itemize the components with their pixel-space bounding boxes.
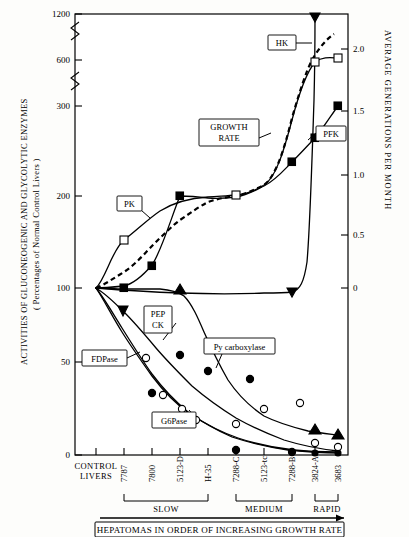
callout-pfk-label: PFK xyxy=(323,129,339,139)
y-ticklabel-600: 600 xyxy=(57,55,71,65)
callout-fdpase-label: FDPase xyxy=(91,354,118,364)
x-label-5123-d: 5123-D xyxy=(175,456,185,482)
arrow-head-icon xyxy=(336,515,344,522)
marker-g6p-7288b xyxy=(296,399,303,406)
marker-pyc-5123d xyxy=(176,351,183,358)
callout-pk-label: PK xyxy=(124,199,136,209)
growth-group-brackets: SLOW MEDIUM RAPID xyxy=(124,494,341,514)
marker-g6p-3824a xyxy=(311,439,318,446)
group-label-rapid: RAPID xyxy=(313,504,341,514)
callout-g6pase-label: G6Pase xyxy=(161,416,187,426)
callout-pepck-line1: PEP xyxy=(151,309,166,319)
x-label-control-line2: LIVERS xyxy=(80,471,112,481)
marker-g6p-h35 xyxy=(178,405,185,412)
y-axis-subtitle: ( Percentages of Normal Control Livers ) xyxy=(31,158,41,310)
x-label-3824-a: 3824-A xyxy=(310,455,320,482)
y2-ticklabel-2: 2.0 xyxy=(353,44,365,54)
y2-ticklabel-05: 0.5 xyxy=(353,230,365,240)
marker-pyc-7288b xyxy=(288,448,295,455)
x-label-control-line1: CONTROL xyxy=(75,461,118,471)
y-axis-right: 2.0 1.5 1.0 0.5 0 AVERAGE GENERATIONS PE… xyxy=(341,30,393,293)
marker-pk-7288c xyxy=(232,191,240,199)
chart-svg: 1200 600 300 200 100 50 0 ACTIVITIES OF … xyxy=(0,0,409,537)
marker-g6p-3683 xyxy=(334,443,341,450)
y-ticklabel-50: 50 xyxy=(61,357,71,367)
marker-pyc-5123tc xyxy=(246,375,253,382)
y-ticklabel-300: 300 xyxy=(57,101,71,111)
y-ticklabel-0: 0 xyxy=(66,450,71,460)
x-label-7787: 7787 xyxy=(119,465,129,482)
marker-pfk-5123d xyxy=(176,192,184,200)
group-label-slow: SLOW xyxy=(153,504,179,514)
bracket-rapid xyxy=(315,494,338,501)
increasing-growth-arrow xyxy=(100,515,344,522)
marker-pk-7800 xyxy=(120,236,128,244)
marker-pyc-7800 xyxy=(148,389,155,396)
marker-pfk-7800 xyxy=(148,262,156,270)
group-label-medium: MEDIUM xyxy=(245,504,283,514)
y-axis-left: 1200 600 300 200 100 50 0 ACTIVITIES OF … xyxy=(19,9,82,460)
callout-growth-rate-line2: RATE xyxy=(218,133,239,143)
callout-hk-label: HK xyxy=(276,38,289,48)
bracket-slow xyxy=(124,494,208,501)
y2-axis-title: AVERAGE GENERATIONS PER MONTH xyxy=(383,30,393,210)
marker-pfk-7288b xyxy=(288,158,296,166)
marker-g6p-5123d xyxy=(159,391,166,398)
bracket-medium xyxy=(236,494,292,501)
plot-frame xyxy=(75,14,348,455)
y-ticklabel-1200: 1200 xyxy=(52,9,71,19)
marker-g6p-7288c xyxy=(232,420,239,427)
marker-pk-3824a xyxy=(311,58,319,66)
marker-g6p-5123tc xyxy=(260,405,267,412)
chart-figure: 1200 600 300 200 100 50 0 ACTIVITIES OF … xyxy=(0,0,409,537)
y2-ticklabel-1: 1.0 xyxy=(353,170,365,180)
x-label-7800: 7800 xyxy=(147,465,157,482)
callout-g6pase: G6Pase xyxy=(152,410,196,428)
marker-pfk-7787 xyxy=(120,284,128,292)
y-ticklabel-200: 200 xyxy=(57,191,71,201)
x-label-7288-c: 7288-C xyxy=(231,456,241,482)
plot-area-border xyxy=(75,14,348,455)
callout-py-carboxylase-label: Py carboxylase xyxy=(214,342,266,352)
marker-pfk-3683 xyxy=(334,102,342,110)
y-ticklabel-100: 100 xyxy=(57,283,71,293)
callout-growth-rate-line1: GROWTH xyxy=(210,122,247,132)
marker-pk-3683 xyxy=(334,54,342,62)
callout-pepck-line2: CK xyxy=(152,320,165,330)
x-label-h-35: H-35 xyxy=(203,465,213,482)
y-axis-title: ACTIVITIES OF GLUCONEOGENIC AND GLYCOLYT… xyxy=(19,98,29,365)
x-label-7288-b: 7288-B xyxy=(287,456,297,482)
y2-ticklabel-15: 1.5 xyxy=(353,106,365,116)
x-label-5123-tc: 5123-tc xyxy=(259,456,269,482)
marker-pyc-7288c xyxy=(232,446,239,453)
x-label-3683: 3683 xyxy=(333,465,343,482)
footer-caption: HEPATOMAS IN ORDER OF INCREASING GROWTH … xyxy=(95,522,344,537)
y2-axis-title-text: AVERAGE GENERATIONS PER MONTH xyxy=(383,30,393,210)
footer-caption-text: HEPATOMAS IN ORDER OF INCREASING GROWTH … xyxy=(97,525,343,535)
marker-pyc-3824a xyxy=(312,450,318,456)
y2-ticklabel-0: 0 xyxy=(353,283,358,293)
marker-g6p-7800 xyxy=(142,354,149,361)
marker-pyc-h35 xyxy=(204,367,211,374)
